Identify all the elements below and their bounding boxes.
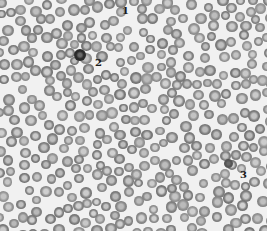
erythrocyte — [38, 111, 47, 120]
erythrocyte — [154, 4, 165, 14]
erythrocyte — [247, 59, 257, 69]
erythrocyte — [3, 94, 15, 106]
erythrocyte — [108, 16, 119, 27]
erythrocyte — [114, 89, 126, 100]
erythrocyte — [204, 110, 214, 120]
erythrocyte — [187, 165, 198, 176]
erythrocyte — [159, 139, 168, 148]
erythrocyte — [3, 202, 13, 212]
erythrocyte — [15, 16, 26, 26]
erythrocyte — [160, 105, 169, 114]
erythrocyte — [136, 212, 147, 223]
erythrocyte — [0, 191, 9, 202]
erythrocyte — [143, 227, 152, 231]
erythrocyte — [32, 172, 42, 181]
erythrocyte — [199, 100, 209, 110]
erythrocyte — [203, 79, 212, 88]
erythrocyte — [11, 59, 22, 70]
erythrocyte — [204, 65, 216, 76]
erythrocyte — [255, 124, 265, 134]
erythrocyte — [34, 100, 45, 110]
erythrocyte — [196, 216, 206, 226]
erythrocyte — [221, 178, 231, 188]
erythrocyte — [237, 200, 248, 211]
erythrocyte — [79, 123, 90, 134]
erythrocyte — [255, 23, 265, 33]
erythrocyte — [166, 57, 176, 67]
erythrocyte — [56, 0, 67, 4]
erythrocyte — [262, 62, 267, 72]
erythrocyte — [50, 60, 61, 70]
erythrocyte — [140, 84, 151, 94]
erythrocyte — [188, 110, 199, 121]
erythrocyte — [83, 64, 93, 74]
erythrocyte — [71, 92, 80, 101]
erythrocyte — [70, 40, 79, 49]
erythrocyte — [265, 116, 267, 127]
erythrocyte — [118, 140, 128, 149]
erythrocyte — [67, 193, 77, 202]
erythrocyte — [223, 224, 234, 231]
erythrocyte — [9, 219, 19, 229]
erythrocyte — [183, 51, 194, 61]
erythrocyte — [139, 148, 149, 158]
erythrocyte — [45, 76, 55, 85]
erythrocyte — [166, 201, 177, 212]
erythrocyte — [236, 93, 248, 105]
erythrocyte — [25, 186, 35, 195]
erythrocyte — [95, 128, 105, 138]
erythrocyte — [54, 124, 65, 135]
erythrocyte — [17, 230, 28, 231]
erythrocyte — [0, 224, 9, 231]
erythrocyte — [240, 214, 251, 225]
erythrocyte — [104, 0, 115, 9]
erythrocyte — [207, 32, 216, 41]
erythrocyte — [106, 107, 118, 118]
erythrocyte — [264, 48, 267, 58]
erythrocyte — [249, 177, 260, 187]
erythrocyte — [93, 140, 102, 149]
erythrocyte — [31, 154, 41, 163]
blood-smear-micrograph — [0, 0, 267, 231]
erythrocyte — [8, 45, 19, 55]
erythrocyte — [229, 132, 240, 142]
erythrocyte — [226, 37, 236, 47]
erythrocyte — [20, 148, 31, 158]
erythrocyte — [195, 193, 205, 203]
erythrocyte — [124, 216, 134, 226]
erythrocyte — [99, 85, 109, 95]
erythrocyte — [187, 206, 198, 217]
erythrocyte — [134, 137, 146, 148]
erythrocyte — [0, 36, 9, 46]
erythrocyte — [63, 88, 72, 97]
erythrocyte — [212, 196, 224, 207]
erythrocyte — [193, 90, 204, 100]
erythrocyte — [62, 20, 73, 31]
erythrocyte — [162, 116, 171, 125]
erythrocyte — [265, 13, 267, 24]
erythrocyte — [62, 156, 73, 167]
erythrocyte — [196, 228, 208, 231]
erythrocyte — [259, 225, 267, 231]
erythrocyte — [75, 136, 85, 146]
erythrocyte — [45, 14, 55, 23]
erythrocyte — [169, 109, 179, 119]
erythrocyte — [142, 62, 154, 73]
erythrocyte — [101, 70, 111, 79]
erythrocyte — [249, 143, 258, 152]
erythrocyte — [91, 41, 102, 52]
erythrocyte — [262, 88, 267, 97]
erythrocyte — [3, 155, 13, 166]
erythrocyte — [3, 105, 13, 115]
erythrocyte — [115, 219, 125, 228]
erythrocyte — [80, 187, 92, 198]
erythrocyte — [92, 198, 101, 206]
erythrocyte — [93, 75, 102, 84]
erythrocyte — [116, 33, 126, 42]
erythrocyte — [117, 79, 127, 89]
erythrocyte — [74, 111, 85, 122]
erythrocyte — [165, 169, 174, 178]
erythrocyte — [73, 201, 83, 211]
erythrocyte — [42, 0, 53, 10]
erythrocyte — [228, 113, 239, 123]
